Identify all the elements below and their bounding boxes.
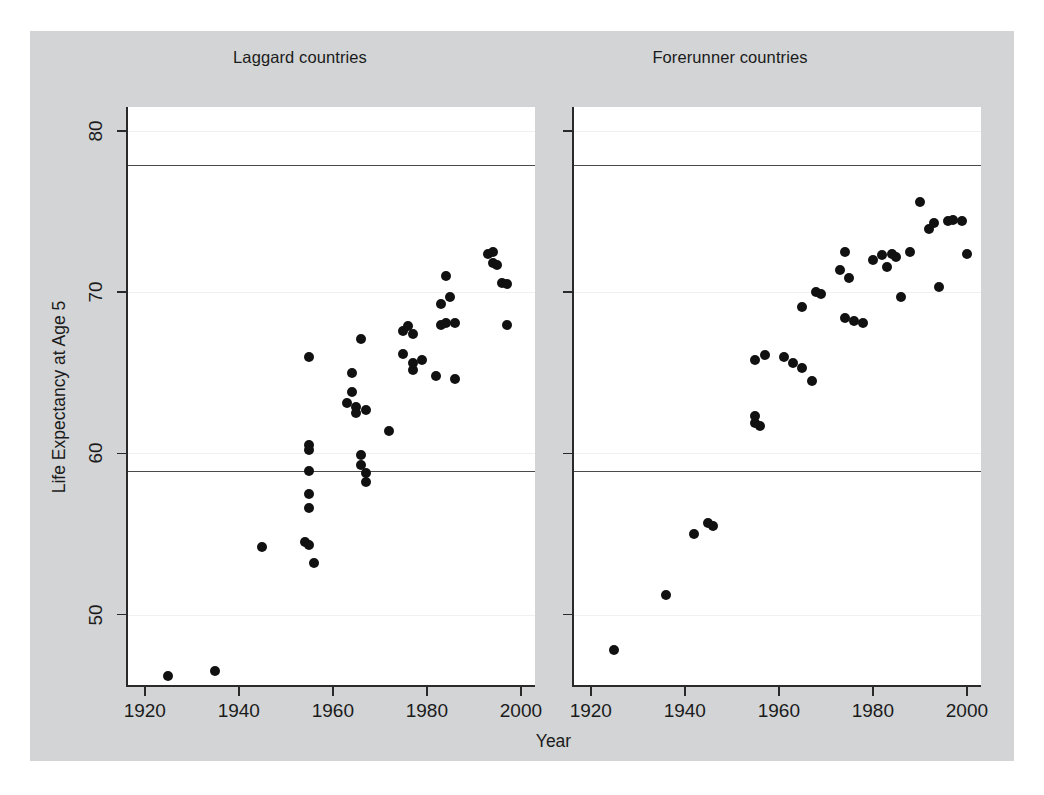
data-point xyxy=(304,540,314,550)
x-tick-mark-1940 xyxy=(238,687,240,696)
y-tick-mark-80 xyxy=(563,130,572,132)
data-point xyxy=(492,260,502,270)
y-tick-label-60: 60 xyxy=(85,443,107,464)
y-tick-mark-70 xyxy=(563,291,572,293)
x-tick-label-1940: 1940 xyxy=(218,700,260,722)
data-point xyxy=(689,529,699,539)
x-tick-mark-2000 xyxy=(966,687,968,696)
data-point xyxy=(905,247,915,257)
data-point xyxy=(257,542,267,552)
y-tick-mark-70 xyxy=(117,291,126,293)
data-point xyxy=(450,318,460,328)
data-point xyxy=(609,645,619,655)
data-point xyxy=(750,355,760,365)
gridline-y-60 xyxy=(572,453,981,454)
data-point xyxy=(347,387,357,397)
plot-area-forerunner: 19201940196019802000 xyxy=(572,107,981,687)
data-point xyxy=(304,489,314,499)
x-tick-mark-1920 xyxy=(144,687,146,696)
y-axis-spine-left-panel xyxy=(126,107,128,687)
x-tick-mark-1920 xyxy=(590,687,592,696)
plot-area-laggard: 5060708019201940196019802000 xyxy=(126,107,535,687)
data-point xyxy=(840,247,850,257)
panel-title-laggard: Laggard countries xyxy=(130,48,470,67)
data-point xyxy=(210,666,220,676)
data-point xyxy=(779,352,789,362)
data-point xyxy=(384,426,394,436)
data-point xyxy=(361,468,371,478)
data-point xyxy=(957,216,967,226)
data-point xyxy=(431,371,441,381)
gridline-y-60 xyxy=(126,453,535,454)
y-tick-mark-50 xyxy=(563,614,572,616)
data-point xyxy=(760,350,770,360)
y-tick-mark-60 xyxy=(117,453,126,455)
y-axis-label: Life Expectancy at Age 5 xyxy=(46,107,72,687)
x-tick-label-2000: 2000 xyxy=(500,700,542,722)
gridline-y-70 xyxy=(126,292,535,293)
y-axis-label-text: Life Expectancy at Age 5 xyxy=(49,301,70,494)
data-point xyxy=(436,299,446,309)
x-tick-mark-1960 xyxy=(778,687,780,696)
x-tick-label-1920: 1920 xyxy=(570,700,612,722)
data-point xyxy=(488,247,498,257)
data-point xyxy=(929,218,939,228)
reference-line-1 xyxy=(126,165,535,166)
y-axis-spine-right-panel xyxy=(572,107,574,687)
data-point xyxy=(445,292,455,302)
data-point xyxy=(304,352,314,362)
data-point xyxy=(361,405,371,415)
data-point xyxy=(896,292,906,302)
data-point xyxy=(868,255,878,265)
panel-title-forerunner: Forerunner countries xyxy=(560,48,900,67)
x-tick-label-1960: 1960 xyxy=(758,700,800,722)
data-point xyxy=(858,318,868,328)
x-axis-spine-left-panel xyxy=(126,685,535,687)
data-point xyxy=(661,590,671,600)
data-point xyxy=(304,440,314,450)
reference-line-1 xyxy=(572,165,981,166)
data-point xyxy=(309,558,319,568)
data-point xyxy=(347,368,357,378)
data-point xyxy=(835,265,845,275)
data-point xyxy=(844,273,854,283)
x-tick-mark-1960 xyxy=(332,687,334,696)
x-tick-label-1940: 1940 xyxy=(664,700,706,722)
data-point xyxy=(398,349,408,359)
data-point xyxy=(797,302,807,312)
data-point xyxy=(441,271,451,281)
x-tick-label-1960: 1960 xyxy=(312,700,354,722)
data-point xyxy=(361,477,371,487)
gridline-y-80 xyxy=(126,131,535,132)
data-point xyxy=(163,671,173,681)
x-tick-mark-1940 xyxy=(684,687,686,696)
data-point xyxy=(934,282,944,292)
x-axis-spine-right-panel xyxy=(572,685,981,687)
figure-canvas: Laggard countries Forerunner countries L… xyxy=(30,31,1014,761)
x-tick-mark-1980 xyxy=(872,687,874,696)
data-point xyxy=(915,197,925,207)
plot-panel-laggard: 5060708019201940196019802000 xyxy=(126,107,535,687)
figure-page: Laggard countries Forerunner countries L… xyxy=(0,0,1044,795)
x-tick-label-1920: 1920 xyxy=(124,700,166,722)
gridline-y-80 xyxy=(572,131,981,132)
data-point xyxy=(816,289,826,299)
data-point xyxy=(417,355,427,365)
data-point xyxy=(797,363,807,373)
y-tick-label-80: 80 xyxy=(85,121,107,142)
data-point xyxy=(807,376,817,386)
data-point xyxy=(502,279,512,289)
y-tick-mark-80 xyxy=(117,130,126,132)
data-point xyxy=(450,374,460,384)
data-point xyxy=(356,334,366,344)
gridline-y-70 xyxy=(572,292,981,293)
plot-panel-forerunner: 19201940196019802000 xyxy=(572,107,981,687)
data-point xyxy=(882,262,892,272)
data-point xyxy=(755,421,765,431)
x-tick-label-1980: 1980 xyxy=(852,700,894,722)
data-point xyxy=(304,466,314,476)
x-tick-mark-1980 xyxy=(426,687,428,696)
reference-line-0 xyxy=(572,471,981,472)
y-tick-label-50: 50 xyxy=(85,604,107,625)
data-point xyxy=(891,252,901,262)
